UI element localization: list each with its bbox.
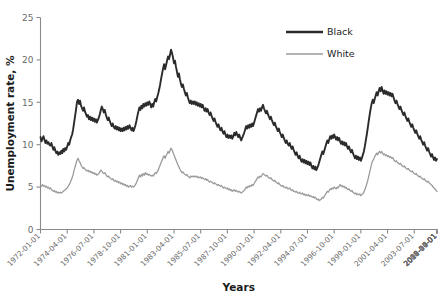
y-tick-label: 5 bbox=[28, 182, 34, 192]
y-axis-ticks: 0510152025 bbox=[22, 13, 40, 235]
y-tick-label: 15 bbox=[22, 98, 33, 108]
y-axis-title: Unemployment rate, % bbox=[4, 55, 16, 191]
y-tick-label: 20 bbox=[22, 55, 34, 65]
unemployment-line-chart: 0510152025 1972-01-011974-04-011976-07-0… bbox=[0, 0, 444, 298]
chart-legend: BlackWhite bbox=[286, 26, 355, 59]
y-tick-label: 25 bbox=[22, 13, 33, 23]
series-line-white bbox=[41, 148, 438, 201]
x-axis-ticks: 1972-01-011974-04-011976-07-011978-10-01… bbox=[5, 230, 438, 269]
legend-label-white: White bbox=[327, 48, 355, 59]
series-line-black bbox=[41, 50, 438, 170]
x-axis-title: Years bbox=[222, 281, 255, 293]
data-series-group bbox=[41, 50, 438, 201]
axis-lines bbox=[41, 18, 438, 230]
y-tick-label: 10 bbox=[22, 140, 34, 150]
chart-figure: 0510152025 1972-01-011974-04-011976-07-0… bbox=[0, 0, 444, 298]
legend-label-black: Black bbox=[327, 26, 353, 37]
